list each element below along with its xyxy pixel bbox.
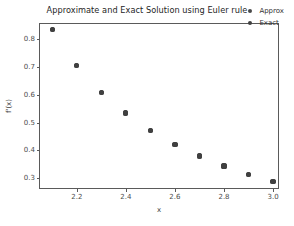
- data-point: [74, 63, 79, 68]
- x-tick-label: 2.4: [120, 193, 131, 201]
- scatter-data-layer: [40, 24, 278, 188]
- x-tick-label: 2.8: [218, 193, 229, 201]
- x-tick-mark: [273, 188, 274, 192]
- data-point: [50, 27, 55, 32]
- chart-figure: Approximate and Exact Solution using Eul…: [0, 0, 294, 226]
- y-tick-label: 0.5: [24, 119, 35, 127]
- legend-item-exact[interactable]: Exact: [240, 19, 284, 27]
- x-axis-label: x: [39, 206, 279, 214]
- legend-marker-icon: [248, 21, 253, 26]
- y-tick-label: 0.3: [24, 174, 35, 182]
- x-tick-mark: [77, 188, 78, 192]
- legend-item-approx[interactable]: Approx: [240, 7, 284, 15]
- data-point: [197, 153, 202, 158]
- data-point: [221, 163, 226, 168]
- legend-label: Approx: [259, 7, 284, 15]
- y-tick-label: 0.7: [24, 63, 35, 71]
- data-point: [172, 142, 177, 147]
- x-tick-mark: [126, 188, 127, 192]
- data-point: [270, 179, 275, 184]
- y-tick-mark: [37, 67, 41, 68]
- y-tick-mark: [37, 95, 41, 96]
- y-tick-label: 0.4: [24, 146, 35, 154]
- x-tick-label: 3.0: [268, 193, 279, 201]
- data-point: [99, 90, 104, 95]
- y-tick-label: 0.8: [24, 35, 35, 43]
- x-tick-label: 2.2: [71, 193, 82, 201]
- y-tick-mark: [37, 123, 41, 124]
- x-tick-label: 2.6: [169, 193, 180, 201]
- y-tick-label: 0.6: [24, 91, 35, 99]
- data-point: [246, 172, 251, 177]
- data-point: [123, 110, 128, 115]
- y-tick-mark: [37, 39, 41, 40]
- y-tick-mark: [37, 178, 41, 179]
- y-axis-label: f'(x): [5, 99, 13, 113]
- legend-marker-icon: [248, 9, 253, 14]
- x-tick-mark: [175, 188, 176, 192]
- data-point: [148, 128, 153, 133]
- chart-legend: ApproxExact: [238, 5, 288, 29]
- y-tick-mark: [37, 150, 41, 151]
- plot-area: 0.30.40.50.60.70.82.22.42.62.83.0: [39, 23, 279, 189]
- legend-label: Exact: [259, 19, 278, 27]
- x-tick-mark: [224, 188, 225, 192]
